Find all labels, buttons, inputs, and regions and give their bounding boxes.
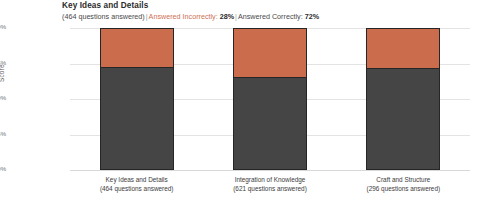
y-axis-tick-label: 0% — [0, 166, 6, 172]
chart-subtitle: (464 questions answered)|Answered Incorr… — [62, 12, 472, 22]
y-axis-tick-label: 50% — [0, 95, 6, 101]
x-axis-category-label: Integration of Knowledge(621 questions a… — [205, 175, 335, 193]
bar-stack[interactable] — [233, 28, 307, 170]
x-axis-category-label: Key Ideas and Details(464 questions answ… — [72, 175, 202, 193]
bar-segment-correct[interactable] — [100, 68, 174, 170]
y-axis-title: Score — [0, 64, 5, 82]
category-question-count: (464 questions answered) — [72, 184, 202, 193]
bar-segment-correct[interactable] — [366, 69, 440, 170]
bar-group[interactable] — [366, 28, 440, 170]
chart-title: Key Ideas and Details — [62, 1, 472, 11]
chart-header: Key Ideas and Details (464 questions ans… — [62, 1, 472, 22]
bar-segment-incorrect[interactable] — [366, 28, 440, 69]
category-name: Integration of Knowledge — [205, 175, 335, 184]
x-axis-category-label: Craft and Structure(296 questions answer… — [338, 175, 468, 193]
answered-incorrectly-value: 28% — [220, 12, 234, 21]
bar-segment-incorrect[interactable] — [233, 28, 307, 78]
category-name: Craft and Structure — [338, 175, 468, 184]
y-axis-tick-label: 75% — [0, 60, 6, 66]
questions-answered-count: (464 questions answered) — [62, 12, 145, 21]
bar-segment-correct[interactable] — [233, 78, 307, 170]
y-axis-tick-label: 25% — [0, 131, 6, 137]
category-question-count: (621 questions answered) — [205, 184, 335, 193]
bar-stack[interactable] — [366, 28, 440, 170]
bar-group[interactable] — [100, 28, 174, 170]
gridline — [70, 170, 470, 171]
bar-group[interactable] — [233, 28, 307, 170]
bar-segment-incorrect[interactable] — [100, 28, 174, 68]
stacked-bar-chart: Key Ideas and Details (464 questions ans… — [0, 0, 480, 204]
answered-correctly-value: 72% — [305, 12, 319, 21]
answered-incorrectly-label: Answered Incorrectly: — [149, 12, 218, 21]
y-axis-tick-label: 100% — [0, 24, 6, 30]
plot-area — [70, 28, 470, 170]
category-question-count: (296 questions answered) — [338, 184, 468, 193]
answered-correctly-label: Answered Correctly: — [238, 12, 303, 21]
bar-stack[interactable] — [100, 28, 174, 170]
category-name: Key Ideas and Details — [72, 175, 202, 184]
